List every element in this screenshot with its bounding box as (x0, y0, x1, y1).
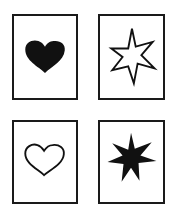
filled-heart-icon (14, 16, 76, 98)
card-outline-heart[interactable] (12, 120, 78, 204)
filled-star-icon (100, 122, 163, 202)
card-filled-heart[interactable] (12, 14, 78, 100)
outline-star-icon (100, 16, 163, 98)
card-filled-star[interactable] (98, 120, 165, 204)
outline-heart-icon (14, 122, 76, 202)
card-outline-star[interactable] (98, 14, 165, 100)
